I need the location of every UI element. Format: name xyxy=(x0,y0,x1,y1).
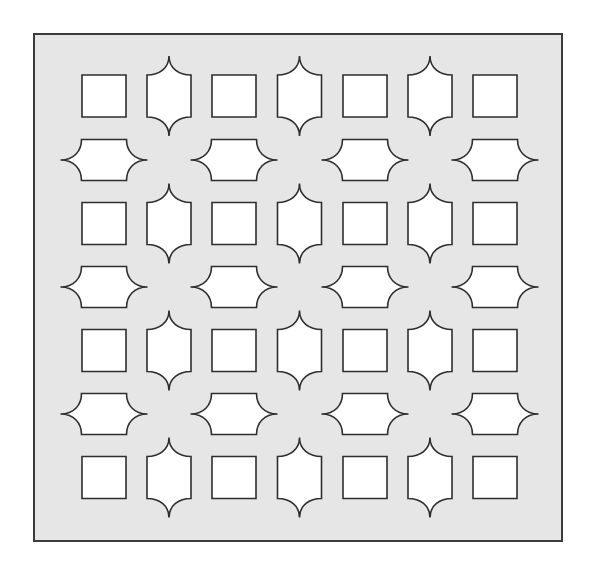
square-cutout xyxy=(343,75,387,117)
square-cutout xyxy=(343,330,387,372)
square-cutout xyxy=(473,75,517,117)
square-cutout xyxy=(473,203,517,245)
square-cutout xyxy=(473,457,517,499)
square-cutout xyxy=(212,457,256,499)
square-cutout xyxy=(212,203,256,245)
square-cutout xyxy=(82,203,126,245)
square-cutout xyxy=(343,457,387,499)
square-cutout xyxy=(82,457,126,499)
lattice-panel-figure xyxy=(0,0,591,572)
square-cutout xyxy=(212,330,256,372)
square-cutout xyxy=(82,75,126,117)
square-cutout xyxy=(212,75,256,117)
square-cutout xyxy=(343,203,387,245)
square-cutout xyxy=(473,330,517,372)
square-cutout xyxy=(82,330,126,372)
